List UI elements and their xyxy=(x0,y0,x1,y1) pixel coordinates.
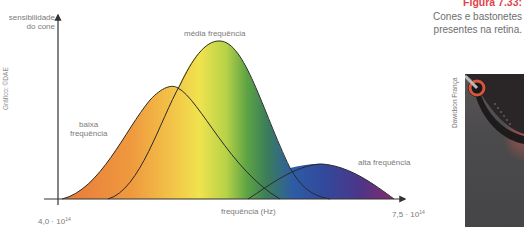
label-low-line1: baixa xyxy=(70,120,107,129)
y-axis-label-line2: do cone xyxy=(0,22,55,31)
microscope-icon xyxy=(465,74,524,227)
x-tick-end-base: 7,5 · 10 xyxy=(392,210,419,219)
chart-credit: Gráfico: ©DAE xyxy=(2,67,9,110)
y-axis-label: sensibilidade do cone xyxy=(0,13,55,31)
label-mid-frequency: média frequência xyxy=(184,29,245,38)
figure-title: Figura 7.33: xyxy=(463,0,522,8)
x-axis-label: frequência (Hz) xyxy=(221,207,276,216)
x-tick-start-base: 4,0 · 10 xyxy=(38,217,65,226)
x-tick-end: 7,5 · 1014 xyxy=(392,210,425,219)
label-low-frequency: baixa frequência xyxy=(70,120,107,138)
y-axis-label-line1: sensibilidade xyxy=(0,13,55,22)
x-tick-end-exp: 14 xyxy=(419,209,425,215)
figure-caption: Cones e bastonetes presentes na retina. xyxy=(433,10,522,36)
photo-credit: Dawidson França xyxy=(451,77,458,128)
spectrum-fill xyxy=(62,41,394,199)
x-tick-start: 4,0 · 1014 xyxy=(38,217,71,226)
caption-line1: Cones e bastonetes xyxy=(433,10,522,23)
label-high-frequency: alta frequência xyxy=(358,158,410,167)
retina-photo xyxy=(465,74,524,227)
x-tick-start-exp: 14 xyxy=(65,216,71,222)
caption-line2: presentes na retina. xyxy=(433,23,522,36)
label-low-line2: frequência xyxy=(70,129,107,138)
